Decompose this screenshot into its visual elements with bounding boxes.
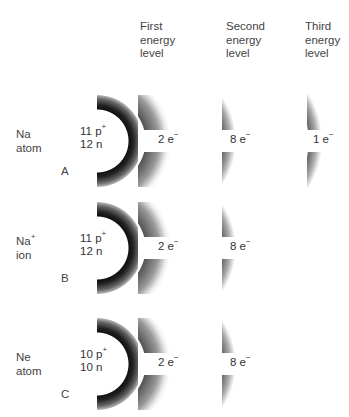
proton-charge: +	[102, 122, 107, 131]
header-line: Third	[305, 20, 340, 34]
header-line: Second	[226, 20, 265, 34]
second-shell-electrons: 8 e−	[230, 133, 251, 145]
neutron-count: 10 n	[80, 361, 107, 374]
proton-charge: +	[102, 229, 107, 238]
header-line: First	[140, 20, 175, 34]
proton-count: 10 p	[80, 348, 102, 360]
row-b-na-ion: Na+ ion B 11 p+ 12 n 2 e− 8 e−	[0, 202, 349, 302]
header-third-energy-level: Third energy level	[305, 20, 340, 61]
header-line: level	[140, 47, 175, 61]
second-shell-electrons: 8 e−	[230, 240, 251, 252]
species-symbol: Ne	[16, 351, 31, 363]
panel-letter: C	[61, 388, 69, 400]
row-c-ne-atom: Ne atom C 10 p+ 10 n 2 e− 8 e−	[0, 318, 349, 417]
proton-count: 11 p	[80, 232, 102, 244]
species-kind: ion	[16, 248, 35, 262]
first-shell-electrons: 2 e−	[158, 356, 179, 368]
species-label: Na atom	[16, 127, 42, 155]
nucleus-label: 11 p+ 12 n	[80, 125, 106, 151]
row-a-na-atom: Na atom A 11 p+ 12 n 2 e− 8 e− 1 e−	[0, 95, 349, 195]
proton-count: 11 p	[80, 125, 102, 137]
nucleus-label: 10 p+ 10 n	[80, 348, 107, 374]
header-line: level	[305, 47, 340, 61]
species-label: Na+ ion	[16, 234, 35, 262]
third-shell-electrons: 1 e−	[313, 133, 334, 145]
nucleus-label: 11 p+ 12 n	[80, 232, 106, 258]
header-line: energy	[305, 34, 340, 48]
neutron-count: 12 n	[80, 245, 106, 258]
header-second-energy-level: Second energy level	[226, 20, 265, 61]
header-line: energy	[226, 34, 265, 48]
header-line: level	[226, 47, 265, 61]
header-line: energy	[140, 34, 175, 48]
panel-letter: A	[61, 165, 69, 177]
proton-charge: +	[102, 345, 107, 354]
species-kind: atom	[16, 364, 42, 378]
species-symbol: Na	[16, 235, 31, 247]
panel-letter: B	[61, 272, 69, 284]
first-shell-electrons: 2 e−	[158, 240, 179, 252]
second-shell-electrons: 8 e−	[230, 356, 251, 368]
first-shell-electrons: 2 e−	[158, 133, 179, 145]
header-first-energy-level: First energy level	[140, 20, 175, 61]
species-charge: +	[31, 232, 36, 241]
neutron-count: 12 n	[80, 138, 106, 151]
species-label: Ne atom	[16, 350, 42, 378]
species-symbol: Na	[16, 128, 31, 140]
species-kind: atom	[16, 141, 42, 155]
